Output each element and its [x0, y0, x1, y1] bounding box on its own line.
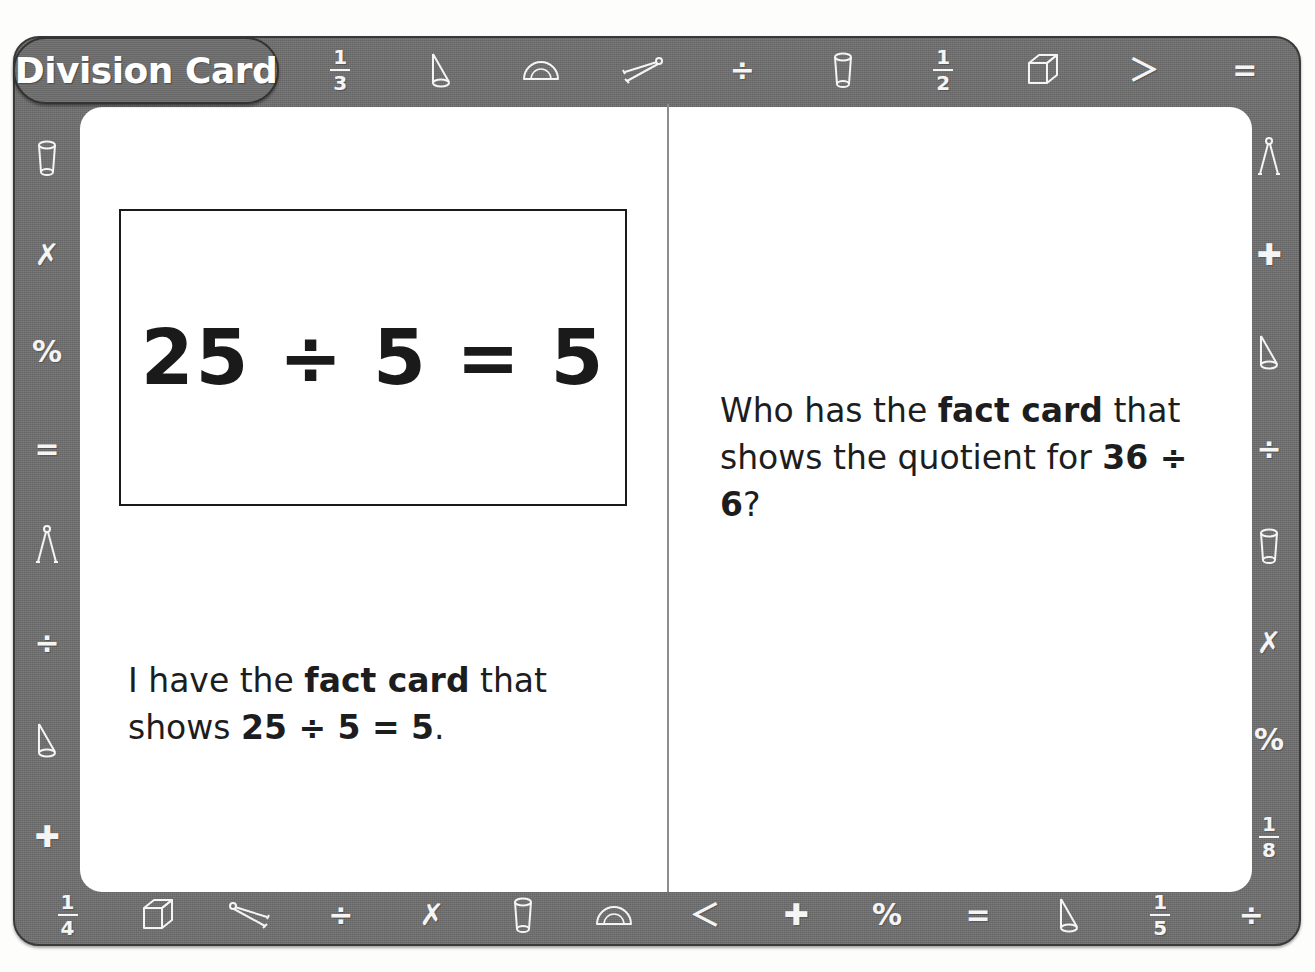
who-has-question: Who has the fact card that shows the quo…: [720, 388, 1210, 529]
page-title: Division Card: [15, 50, 277, 91]
question-suffix: ?: [743, 485, 761, 524]
i-have-statement: I have the fact card that shows 25 ÷ 5 =…: [128, 658, 633, 752]
question-prefix: Who has the: [720, 391, 938, 430]
statement-bold-phrase: fact card: [304, 661, 469, 700]
page-background: Division Card 13÷12＞= 14÷✗＜✚%=15÷ ✗%=÷✚ …: [0, 0, 1315, 972]
fact-equation-text: 25 ÷ 5 = 5: [141, 313, 606, 402]
statement-bold-equation: 25 ÷ 5 = 5: [241, 708, 434, 747]
question-bold-phrase: fact card: [938, 391, 1103, 430]
statement-suffix: .: [434, 708, 445, 747]
fact-equation-box: 25 ÷ 5 = 5: [119, 209, 627, 506]
statement-prefix: I have the: [128, 661, 304, 700]
card-title-tab: Division Card: [13, 37, 279, 104]
panel-divider: [667, 104, 669, 892]
